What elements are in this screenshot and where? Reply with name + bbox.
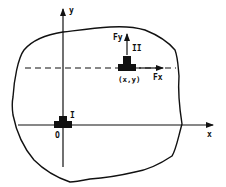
diagram-canvas: y x I O II (x,y) Fy Fx <box>0 0 226 187</box>
region-boundary <box>12 27 182 182</box>
element-II-label: II <box>132 44 142 53</box>
element-I-label: I <box>70 111 75 120</box>
y-axis-label: y <box>69 6 74 15</box>
origin-label: O <box>55 131 60 140</box>
element-II <box>118 56 136 71</box>
force-fx-label: Fx <box>153 73 163 82</box>
force-fy-label: Fy <box>113 33 123 42</box>
element-II-position-label: (x,y) <box>118 75 141 84</box>
x-axis-label: x <box>207 130 212 139</box>
